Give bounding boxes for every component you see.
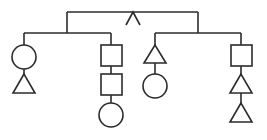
circle-icon <box>143 74 167 98</box>
triangle-icon <box>13 74 35 93</box>
right-branch <box>143 33 252 122</box>
circle-icon <box>99 103 123 127</box>
tree-diagram <box>0 0 267 140</box>
column-2 <box>99 33 123 127</box>
square-icon <box>101 45 122 66</box>
square-icon <box>101 74 122 95</box>
left-branch <box>12 33 123 127</box>
column-1 <box>12 33 36 93</box>
triangle-icon <box>230 103 252 122</box>
square-icon <box>231 45 252 66</box>
caret-icon <box>126 12 140 25</box>
column-4 <box>230 33 252 122</box>
root-connector <box>67 12 198 33</box>
column-3 <box>143 33 167 98</box>
triangle-icon <box>230 74 252 93</box>
circle-icon <box>12 45 36 69</box>
triangle-icon <box>144 45 166 63</box>
